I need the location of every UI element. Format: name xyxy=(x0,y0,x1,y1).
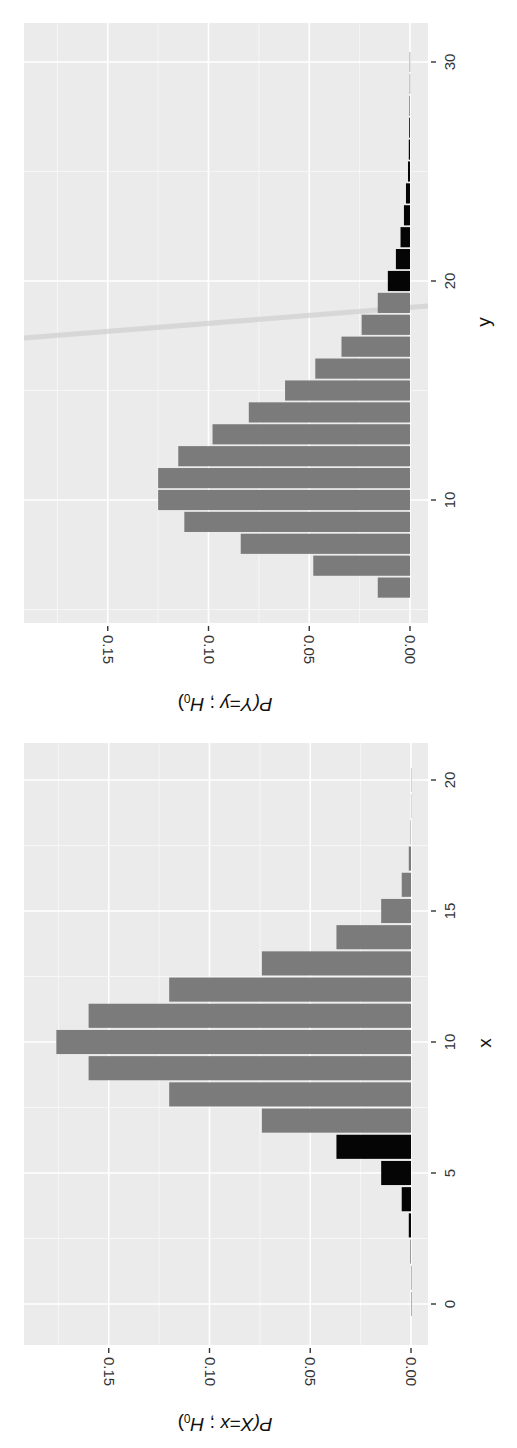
bar xyxy=(158,490,410,510)
bar xyxy=(56,1030,411,1054)
panel-top-y-axis-title: P(Y=y ; H0) xyxy=(178,691,273,715)
ylabel-prefix: P( xyxy=(252,1414,273,1435)
category-tick-label: 0 xyxy=(441,1300,458,1308)
panel-bottom-category-ticks: 05101520 xyxy=(431,772,458,1309)
ylabel-suffix: ) xyxy=(178,1414,184,1435)
bar xyxy=(341,337,410,357)
value-tick-label: 0.10 xyxy=(202,1357,219,1386)
bar xyxy=(158,468,410,488)
category-tick-label: 20 xyxy=(441,772,458,789)
bar-rejection-region xyxy=(409,118,410,138)
bar xyxy=(213,424,410,444)
bar-rejection-region xyxy=(404,205,410,225)
panel-bottom-x-axis-title: x xyxy=(474,1038,495,1048)
panel-bottom-x-distribution: 05101520 0.000.050.100.15 x P(X=x ; H0) xyxy=(24,743,495,1435)
ylabel-sep: ; xyxy=(204,694,220,715)
ylabel-h: H xyxy=(190,1414,204,1435)
panel-top-category-ticks: 102030 xyxy=(431,54,458,509)
ylabel-eq: = xyxy=(230,694,241,715)
bar-rejection-region xyxy=(401,227,410,247)
bar xyxy=(409,847,411,871)
bar-rejection-region xyxy=(409,140,410,160)
bar xyxy=(381,899,411,923)
bar xyxy=(378,293,410,313)
value-tick-label: 0.10 xyxy=(201,635,218,664)
bar-rejection-region xyxy=(409,1213,411,1237)
bar xyxy=(184,512,410,532)
value-tick-label: 0.15 xyxy=(100,635,117,664)
ylabel-sep: ; xyxy=(204,1414,220,1435)
bar xyxy=(402,873,411,897)
panel-bottom-value-ticks: 0.000.050.100.15 xyxy=(101,1348,420,1386)
ylabel-eq: = xyxy=(230,1414,241,1435)
bar-rejection-region xyxy=(388,271,410,291)
bar xyxy=(169,1082,411,1106)
value-tick-label: 0.00 xyxy=(403,1357,420,1386)
value-tick-label: 0.00 xyxy=(402,635,419,664)
bar xyxy=(378,578,410,598)
bar-rejection-region xyxy=(408,161,410,181)
panel-bottom-y-axis-title: P(X=x ; H0) xyxy=(178,1411,273,1435)
category-tick-label: 5 xyxy=(441,1169,458,1177)
bar-rejection-region xyxy=(402,1187,411,1211)
bar-rejection-region xyxy=(396,249,410,269)
bar xyxy=(249,402,410,422)
bar xyxy=(89,1004,411,1028)
panel-top-y-distribution: 102030 0.000.050.100.15 y P(Y=y ; H0) xyxy=(24,23,494,715)
bar xyxy=(315,359,410,379)
rotated-bar-chart-figure: 102030 0.000.050.100.15 y P(Y=y ; H0) 05… xyxy=(0,0,517,1448)
bar xyxy=(285,380,410,400)
value-tick-label: 0.05 xyxy=(302,1357,319,1386)
bar xyxy=(262,951,411,975)
category-tick-label: 15 xyxy=(441,903,458,920)
bar xyxy=(241,534,410,554)
ylabel-suffix: ) xyxy=(178,694,184,715)
bar xyxy=(262,1109,411,1133)
panel-top-value-ticks: 0.000.050.100.15 xyxy=(100,626,419,664)
bar-rejection-region xyxy=(381,1161,411,1185)
bar xyxy=(362,315,410,335)
value-tick-label: 0.05 xyxy=(301,635,318,664)
value-tick-label: 0.15 xyxy=(101,1357,118,1386)
bar xyxy=(89,1056,411,1080)
bar xyxy=(178,446,410,466)
bar xyxy=(336,925,411,949)
bar xyxy=(313,556,410,576)
ylabel-h: H xyxy=(190,694,204,715)
category-tick-label: 30 xyxy=(441,54,458,71)
panel-top-x-axis-title: y xyxy=(473,317,494,327)
category-tick-label: 10 xyxy=(441,492,458,509)
bar xyxy=(169,978,411,1002)
category-tick-label: 20 xyxy=(441,273,458,290)
ylabel-prefix: P( xyxy=(252,694,273,715)
bar-rejection-region xyxy=(336,1135,411,1159)
bar-rejection-region xyxy=(406,183,410,203)
category-tick-label: 10 xyxy=(441,1034,458,1051)
